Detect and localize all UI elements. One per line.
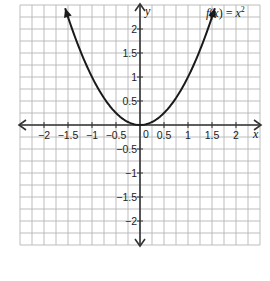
y-tick-label: 0.5 [122,95,137,107]
y-tick-label: −2 [125,215,137,227]
x-tick-label: 1 [185,129,191,141]
function-equals: ) = [219,6,236,20]
function-exponent: 2 [241,5,245,14]
x-tick-label: 0.5 [157,129,172,141]
x-tick-label: 2 [233,129,239,141]
x-axis-label: x [252,127,259,141]
x-tick-label: −1.5 [58,129,79,141]
x-tick-label: −2 [38,129,50,141]
y-axis-label: y [144,4,151,18]
y-tick-label: −0.5 [116,143,137,155]
y-tick-label: 1.5 [122,47,137,59]
x-tick-label: −0.5 [106,129,127,141]
origin-label: 0 [143,128,149,140]
y-tick-label: −1.5 [116,191,137,203]
x-tick-label: −1 [86,129,98,141]
y-tick-label: 2 [131,23,137,35]
y-tick-label: −1 [125,167,137,179]
function-label: f(x) = x2 [206,5,245,20]
parabola-chart: −2−1.5−1−0.50.511.52 21.510.5−0.5−1−1.5−… [0,0,270,281]
x-tick-label: 1.5 [205,129,220,141]
y-tick-label: 1 [131,71,137,83]
